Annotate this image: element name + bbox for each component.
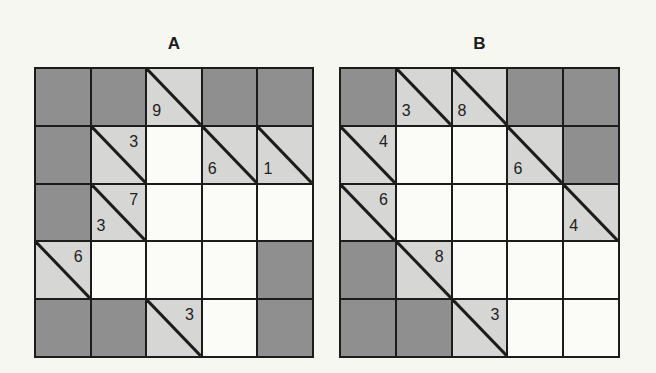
- clue-cell: 8: [397, 242, 451, 298]
- across-clue-number: 3: [129, 134, 138, 150]
- entry-cell[interactable]: [203, 300, 257, 356]
- blocked-cell: [203, 69, 257, 125]
- entry-cell[interactable]: [397, 185, 451, 241]
- blocked-cell: [564, 127, 618, 183]
- down-clue-number: 3: [97, 218, 106, 234]
- entry-cell[interactable]: [508, 185, 562, 241]
- clue-cell: 73: [92, 185, 146, 241]
- across-clue-number: 6: [74, 249, 83, 265]
- blocked-cell: [36, 300, 90, 356]
- clue-cell: 3: [397, 69, 451, 125]
- entry-cell[interactable]: [92, 242, 146, 298]
- clue-cell: 9: [147, 69, 201, 125]
- entry-cell[interactable]: [147, 127, 201, 183]
- blocked-cell: [36, 185, 90, 241]
- entry-cell[interactable]: [203, 242, 257, 298]
- clue-cell: 3: [92, 127, 146, 183]
- puzzle-title: A: [34, 34, 314, 54]
- clue-cell: 8: [453, 69, 507, 125]
- across-clue-number: 6: [379, 192, 388, 208]
- entry-cell[interactable]: [258, 185, 312, 241]
- blocked-cell: [341, 300, 395, 356]
- entry-cell[interactable]: [147, 242, 201, 298]
- entry-cell[interactable]: [508, 300, 562, 356]
- across-clue-number: 7: [129, 192, 138, 208]
- puzzle-title: B: [339, 34, 620, 54]
- clue-cell: 4: [341, 127, 395, 183]
- blocked-cell: [258, 242, 312, 298]
- blocked-cell: [36, 69, 90, 125]
- down-clue-number: 6: [208, 161, 217, 177]
- blocked-cell: [397, 300, 451, 356]
- kakuro-grid-a: 93617363: [34, 67, 314, 358]
- entry-cell[interactable]: [564, 300, 618, 356]
- down-clue-number: 1: [263, 161, 272, 177]
- down-clue-number: 4: [569, 218, 578, 234]
- blocked-cell: [92, 69, 146, 125]
- clue-cell: 6: [203, 127, 257, 183]
- blocked-cell: [258, 69, 312, 125]
- clue-cell: 3: [147, 300, 201, 356]
- clue-cell: 6: [508, 127, 562, 183]
- down-clue-number: 6: [513, 161, 522, 177]
- clue-cell: 6: [36, 242, 90, 298]
- entry-cell[interactable]: [397, 127, 451, 183]
- across-clue-number: 4: [379, 134, 388, 150]
- clue-cell: 1: [258, 127, 312, 183]
- entry-cell[interactable]: [203, 185, 257, 241]
- clue-cell: 3: [453, 300, 507, 356]
- entry-cell[interactable]: [453, 185, 507, 241]
- clue-cell: 6: [341, 185, 395, 241]
- blocked-cell: [92, 300, 146, 356]
- across-clue-number: 3: [185, 307, 194, 323]
- down-clue-number: 9: [152, 103, 161, 119]
- blocked-cell: [564, 69, 618, 125]
- down-clue-number: 3: [402, 103, 411, 119]
- blocked-cell: [341, 69, 395, 125]
- blocked-cell: [508, 69, 562, 125]
- entry-cell[interactable]: [453, 242, 507, 298]
- clue-cell: 4: [564, 185, 618, 241]
- blocked-cell: [258, 300, 312, 356]
- kakuro-grid-b: 38466483: [339, 67, 620, 358]
- across-clue-number: 8: [435, 249, 444, 265]
- entry-cell[interactable]: [147, 185, 201, 241]
- entry-cell[interactable]: [564, 242, 618, 298]
- down-clue-number: 8: [458, 103, 467, 119]
- entry-cell[interactable]: [508, 242, 562, 298]
- across-clue-number: 3: [490, 307, 499, 323]
- entry-cell[interactable]: [453, 127, 507, 183]
- blocked-cell: [341, 242, 395, 298]
- blocked-cell: [36, 127, 90, 183]
